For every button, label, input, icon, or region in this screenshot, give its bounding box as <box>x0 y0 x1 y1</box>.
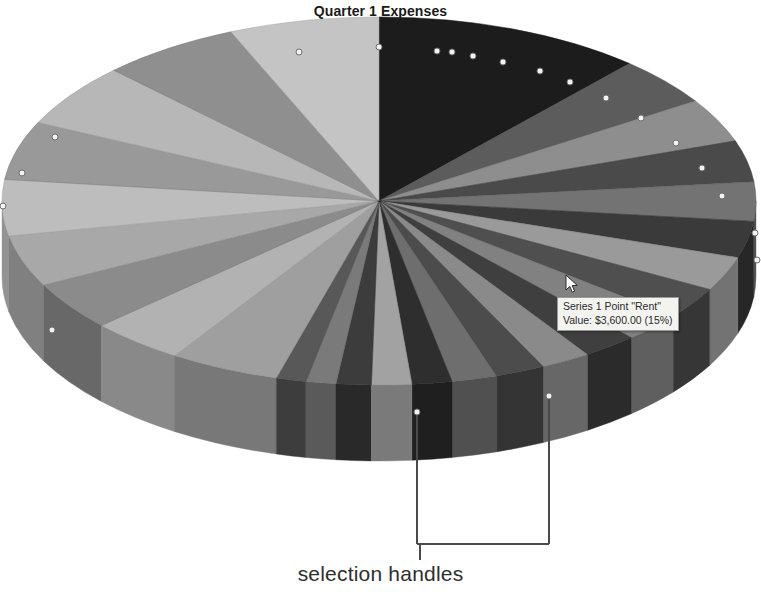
selection-handle[interactable] <box>754 257 760 263</box>
selection-handle[interactable] <box>49 327 55 333</box>
selection-handle[interactable] <box>546 393 552 399</box>
selection-handle[interactable] <box>603 95 609 101</box>
selection-handle[interactable] <box>719 193 725 199</box>
pie-side-segment <box>452 376 496 458</box>
chart-tooltip: Series 1 Point "Rent" Value: $3,600.00 (… <box>557 297 679 331</box>
pie-side-segment <box>276 378 306 457</box>
selection-handle[interactable] <box>470 53 476 59</box>
tooltip-line-value: Value: $3,600.00 (15%) <box>563 314 673 328</box>
selection-handle[interactable] <box>376 44 382 50</box>
selection-handle[interactable] <box>500 59 506 65</box>
selection-handle[interactable] <box>434 48 440 54</box>
selection-handle[interactable] <box>296 49 302 55</box>
selection-handle[interactable] <box>19 170 25 176</box>
pie-side-segment <box>336 384 371 461</box>
selection-handle[interactable] <box>752 230 758 236</box>
selection-handle[interactable] <box>567 79 573 85</box>
pie-side-segment <box>306 382 336 460</box>
selection-handle[interactable] <box>638 115 644 121</box>
selection-handle[interactable] <box>52 134 58 140</box>
selection-handle[interactable] <box>0 203 6 209</box>
selection-handle[interactable] <box>699 165 705 171</box>
mouse-pointer-icon <box>565 274 579 294</box>
selection-handle[interactable] <box>537 68 543 74</box>
pie-side-segment <box>496 367 543 452</box>
selection-handles-label: selection handles <box>0 562 761 586</box>
selection-handle[interactable] <box>414 409 420 415</box>
selection-handle[interactable] <box>449 49 455 55</box>
pie-side-segment <box>371 384 412 461</box>
selection-handle[interactable] <box>673 140 679 146</box>
tooltip-line-series: Series 1 Point "Rent" <box>563 300 673 314</box>
